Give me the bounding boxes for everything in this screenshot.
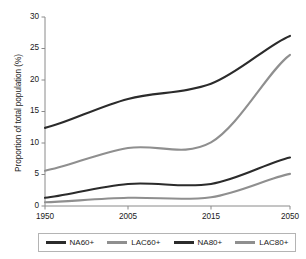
y-tick-label: 10: [17, 138, 39, 147]
legend-item-lac80plus[interactable]: LAC80+: [235, 238, 288, 247]
legend-label: NA60+: [70, 238, 95, 247]
legend-item-na80plus[interactable]: NA80+: [174, 238, 223, 247]
y-tick-label: 0: [17, 201, 39, 210]
series-group: [45, 36, 290, 202]
series-line-lac60plus: [45, 55, 290, 171]
x-tick-label: 2050: [270, 212, 306, 221]
x-tick-label: 2005: [108, 212, 148, 221]
y-tick-label: 5: [17, 169, 39, 178]
legend-line-swatch: [107, 241, 127, 244]
legend-item-na60plus[interactable]: NA60+: [46, 238, 95, 247]
line-chart-figure: Proportion of total population (%) 30252…: [0, 0, 306, 259]
legend-label: NA80+: [198, 238, 223, 247]
y-tick-label: 30: [17, 12, 39, 21]
y-tick-label: 15: [17, 106, 39, 115]
series-line-lac80plus: [45, 174, 290, 202]
x-tick-label: 1950: [25, 212, 65, 221]
legend-line-swatch: [174, 241, 194, 244]
legend-line-swatch: [235, 241, 255, 244]
legend-line-swatch: [46, 241, 66, 244]
x-tick-label: 2015: [191, 212, 231, 221]
axes-group: [42, 17, 291, 210]
series-line-na60plus: [45, 36, 290, 128]
legend-label: LAC80+: [259, 238, 288, 247]
legend-item-lac60plus[interactable]: LAC60+: [107, 238, 160, 247]
y-tick-label: 25: [17, 43, 39, 52]
series-line-na80plus: [45, 157, 290, 197]
chart-legend: NA60+LAC60+NA80+LAC80+: [38, 233, 296, 252]
legend-label: LAC60+: [131, 238, 160, 247]
y-tick-label: 20: [17, 75, 39, 84]
